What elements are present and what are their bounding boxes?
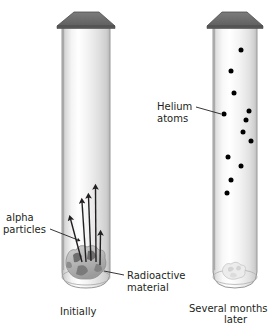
initially-panel: alpha particles Radioactive material Ini…	[3, 12, 186, 317]
caption-later: later	[224, 314, 248, 325]
helium-atom-dot	[239, 164, 244, 169]
helium-atom-dot	[226, 155, 231, 160]
helium-atom-dot	[249, 139, 254, 144]
helium-atoms-label-line1: Helium	[157, 101, 192, 112]
alpha-arrow-4	[96, 188, 97, 262]
right-tube-glass	[213, 26, 257, 288]
left-cap-top-face	[57, 12, 115, 26]
alpha-particles-label-line2: particles	[3, 224, 46, 235]
right-cap-rim	[207, 26, 263, 29]
alpha-arrow-5	[100, 234, 101, 265]
left-tube-cap	[57, 12, 115, 29]
helium-atoms-label-group: Helium atoms	[157, 101, 221, 124]
helium-atom-dot	[229, 178, 234, 183]
helium-atom-dot	[247, 109, 252, 114]
helium-atom-dot	[222, 112, 227, 117]
helium-atom-dot	[239, 48, 244, 53]
alpha-decay-diagram: alpha particles Radioactive material Ini…	[0, 0, 273, 326]
helium-atom-dot	[241, 130, 246, 135]
radioactive-material-label-line2: material	[127, 282, 169, 293]
helium-atoms-label-line2: atoms	[157, 113, 188, 124]
left-cap-rim	[57, 26, 115, 29]
helium-atom-dot	[225, 191, 230, 196]
helium-atom-dot	[244, 118, 249, 123]
helium-atom-dot	[232, 91, 237, 96]
caption-initially: Initially	[60, 306, 96, 317]
right-cap-top-face	[207, 12, 263, 26]
caption-several-months: Several months	[189, 303, 267, 314]
right-tube-cap	[207, 12, 263, 29]
radioactive-material-label-line1: Radioactive	[127, 270, 186, 281]
radioactive-material-label-group: Radioactive material	[104, 270, 186, 293]
residual-material	[222, 262, 245, 279]
helium-atom-dot	[229, 69, 234, 74]
alpha-particles-label-line1: alpha	[6, 212, 34, 223]
right-tube-body	[213, 26, 257, 288]
